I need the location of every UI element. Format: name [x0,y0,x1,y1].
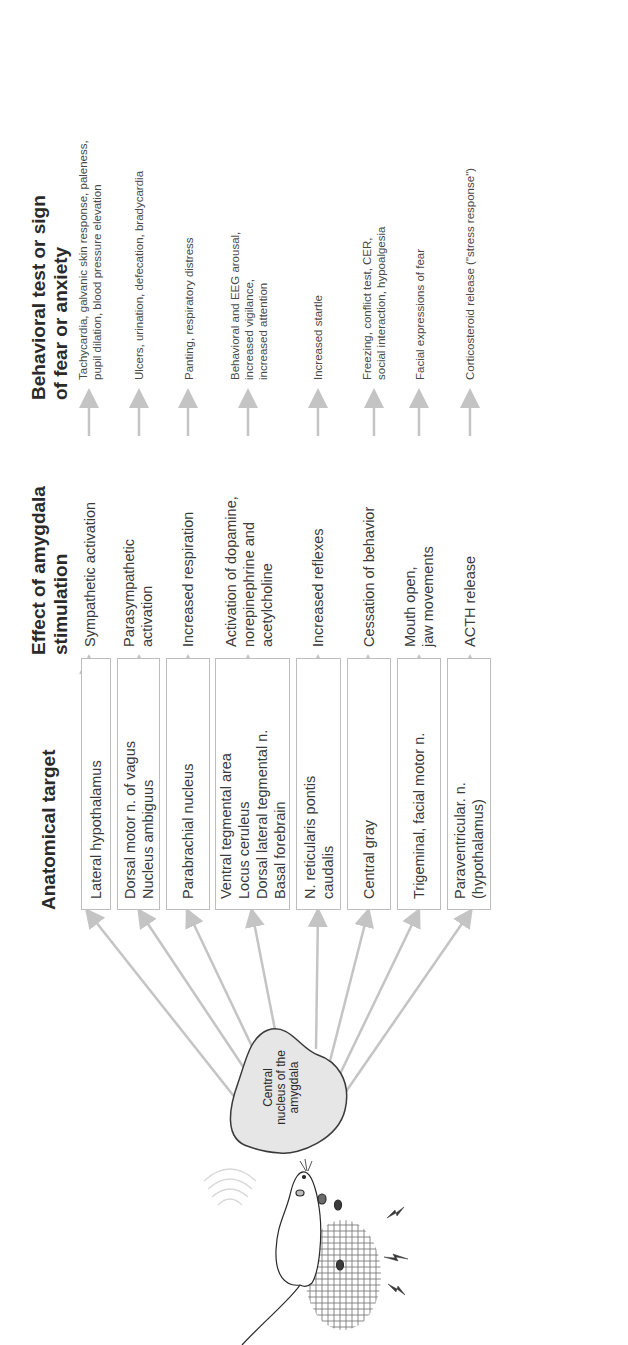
lightning-icon [384,1207,408,1295]
behavior-6: Freezing, conflict test, CER, social int… [357,227,391,380]
target-label: Paraventricular. n. (hypothalamus) [451,782,487,899]
behavior-2: Ulcers, urination, defecation, bradycard… [128,171,150,380]
behavior-3: Panting, respiratory distress [178,237,200,380]
effect-1: Sympathetic activation [76,502,104,647]
target-box-8: Paraventricular. n. (hypothalamus) [447,658,491,910]
behavior-8: Corticosteroid release ("stress response… [459,168,481,380]
sound-waves-icon [204,1169,256,1205]
behavior-5: Increased startle [307,295,329,380]
target-box-2: Dorsal motor n. of vagus Nucleus ambiguu… [117,658,160,910]
effect-6: Cessation of behavior [356,507,382,647]
behavior-4: Behavioral and EEG arousal, increased vi… [224,232,274,380]
row-arrows-effect-to-behavior [89,393,470,436]
target-label: Dorsal motor n. of vagus Nucleus ambiguu… [121,741,157,899]
effect-2: Parasympathetic activation [118,539,158,647]
target-box-7: Trigeminal, facial motor n. [397,658,441,910]
target-label: Trigeminal, facial motor n. [410,733,428,899]
target-label: Central gray [360,820,378,899]
target-box-6: Central gray [347,658,391,910]
effect-8: ACTH release [457,556,483,647]
effect-7: Mouth open, jaw movements [398,546,440,647]
effect-4: Activation of dopamine, norepinephrine a… [220,496,278,647]
amygdala-label: Central nucleus of the amygdala [262,1030,301,1145]
target-label: Parabrachial nucleus [179,764,197,899]
target-box-3: Parabrachial nucleus [166,658,210,910]
target-label: Lateral hypothalamus [87,760,105,899]
behavior-7: Facial expressions of fear [409,249,431,380]
target-box-1: Lateral hypothalamus [81,658,111,910]
effect-5: Increased reflexes [305,529,331,647]
behavior-1: Tachycardia, galvanic skin response, pal… [72,140,108,380]
target-box-5: N. reticularis pontis caudalis [296,658,341,910]
diagram-canvas: Anatomical target Effect of amygdala sti… [0,0,628,1345]
target-label: Ventral tegmental area Locus ceruleus Do… [217,730,289,899]
target-label: N. reticularis pontis caudalis [301,776,337,899]
effect-3: Increased respiration [175,512,201,647]
target-box-4: Ventral tegmental area Locus ceruleus Do… [215,658,290,910]
